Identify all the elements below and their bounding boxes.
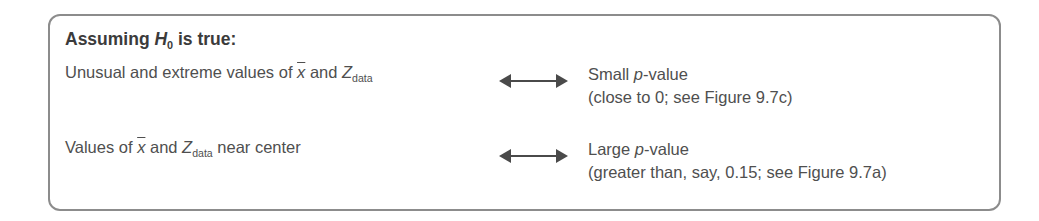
- result-1-prefix: Small: [588, 65, 634, 83]
- h-letter: H: [154, 29, 167, 49]
- row-1-text-b: and: [305, 63, 342, 81]
- heading-suffix: is true:: [173, 29, 236, 49]
- row-1-text-a: Unusual and extreme values of: [65, 63, 297, 81]
- row-2-text-a: Values of: [65, 138, 137, 156]
- result-2-prefix: Large: [588, 140, 635, 158]
- result-2-suffix: -value: [644, 140, 689, 158]
- z-symbol: Z: [342, 63, 352, 81]
- double-headed-arrow-icon: [499, 74, 568, 88]
- row-2-condition: Values of x and Zdata near center: [65, 138, 301, 157]
- row-1-result: Small p-value (close to 0; see Figure 9.…: [588, 63, 793, 109]
- row-2-result-title: Large p-value: [588, 138, 887, 161]
- row-2-result: Large p-value (greater than, say, 0.15; …: [588, 138, 887, 184]
- row-1-result-note: (close to 0; see Figure 9.7c): [588, 86, 793, 109]
- row-2-text-c: near center: [213, 138, 301, 156]
- z-symbol: Z: [182, 138, 192, 156]
- row-1-result-title: Small p-value: [588, 63, 793, 86]
- heading-prefix: Assuming: [65, 29, 154, 49]
- box-heading: Assuming H0 is true:: [65, 29, 236, 50]
- p-symbol: p: [635, 140, 644, 158]
- double-headed-arrow-icon: [499, 149, 568, 163]
- row-2-result-note: (greater than, say, 0.15; see Figure 9.7…: [588, 161, 887, 184]
- z-subscript: data: [192, 147, 213, 159]
- z-subscript: data: [352, 72, 373, 84]
- row-1-condition: Unusual and extreme values of x and Zdat…: [65, 63, 373, 82]
- p-symbol: p: [634, 65, 643, 83]
- h-subscript: 0: [167, 39, 173, 51]
- result-1-suffix: -value: [643, 65, 688, 83]
- row-2-text-b: and: [145, 138, 182, 156]
- h0-symbol: H0: [154, 29, 173, 49]
